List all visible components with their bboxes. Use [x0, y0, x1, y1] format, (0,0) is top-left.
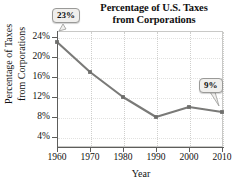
- data-point: [88, 70, 92, 74]
- data-point: [187, 105, 191, 109]
- annotation-end-value: 9%: [199, 78, 223, 93]
- data-point: [121, 95, 125, 99]
- data-point: [55, 40, 59, 44]
- callout-tail-start: [59, 24, 66, 31]
- data-line: [57, 42, 222, 117]
- data-point: [154, 115, 158, 119]
- chart-container: Percentage of U.S. Taxes from Corporatio…: [0, 0, 244, 191]
- data-series-layer: [0, 0, 244, 191]
- x-axis-label: Year: [56, 168, 226, 179]
- annotation-start-value: 23%: [52, 8, 80, 23]
- callout-tail-end: [210, 92, 219, 106]
- data-point: [220, 110, 224, 114]
